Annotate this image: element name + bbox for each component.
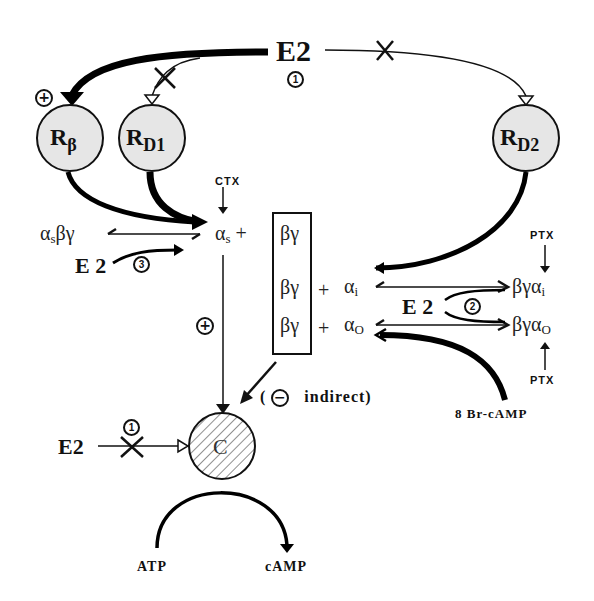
- alpha-s-label: αs +: [215, 223, 247, 245]
- beta-gamma-3: βγ: [280, 315, 299, 335]
- br-camp-label: 8 Br-cAMP: [455, 407, 527, 420]
- e2-ligand-label: E2: [276, 36, 311, 66]
- beta-gamma-1: βγ: [280, 223, 299, 243]
- beta-gamma-2: βγ: [280, 277, 299, 297]
- receptor-rbeta-label: Rβ: [50, 125, 77, 154]
- plus-i: +: [318, 280, 329, 300]
- e2-site2-label: E 2: [402, 296, 433, 318]
- e2-to-rd2-arrow: [325, 50, 526, 96]
- site-1-cyclase-badge: 1: [123, 419, 140, 436]
- site-3-badge: 3: [133, 256, 150, 273]
- receptor-rd1-label: RD1: [126, 125, 165, 154]
- gi-heterotrimer: βγαi: [512, 276, 545, 298]
- receptor-rd2-label: RD2: [500, 125, 539, 154]
- e2-site3-label: E 2: [75, 255, 106, 277]
- e2-to-rd1-arrow: [152, 58, 200, 96]
- site-2-badge: 2: [464, 298, 481, 315]
- ptx-top-label: PTX: [530, 230, 554, 241]
- plus-o: +: [318, 318, 329, 338]
- alpha-o-label: αO: [344, 314, 364, 336]
- site-1-badge: 1: [287, 71, 304, 88]
- inhibitory-sign: −: [271, 389, 289, 407]
- indirect-note: ( − indirect): [260, 389, 372, 407]
- block-x-cyclase: [121, 437, 143, 457]
- alpha-i-label: αi: [344, 276, 358, 298]
- e2-site1-cyclase-label: E2: [58, 436, 84, 458]
- cyclase-label: C: [213, 436, 228, 458]
- stimulatory-sign: +: [196, 317, 214, 335]
- go-heterotrimer: βγαO: [512, 314, 551, 336]
- atp-label: ATP: [137, 560, 167, 574]
- camp-label: cAMP: [265, 560, 307, 574]
- gs-heterotrimer: αsβγ: [40, 223, 75, 245]
- pathway-arrows: [0, 0, 594, 601]
- ctx-label: CTX: [215, 176, 240, 187]
- block-x-rd1: [155, 68, 175, 88]
- ptx-bottom-label: PTX: [530, 375, 554, 386]
- plus-sign-rbeta: +: [35, 89, 53, 107]
